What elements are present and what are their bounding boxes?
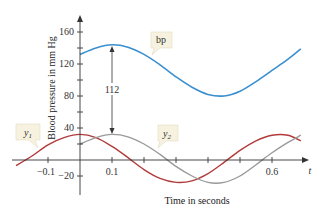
bp-label: bp (156, 34, 166, 45)
y-tick-80: 80 (64, 90, 74, 101)
y-tick-120: 120 (59, 58, 74, 69)
y-tick-minus-20: −20 (58, 170, 74, 181)
x-axis-title: Time in seconds (164, 195, 229, 206)
y-axis-title: Blood pressure in mm Hg (46, 36, 57, 139)
arrow-up-icon (110, 46, 115, 52)
y-tick-160: 160 (59, 26, 74, 37)
bp-callout: bp (151, 32, 172, 55)
y-tick-40: 40 (64, 122, 74, 133)
y-axis-arrow-icon (77, 15, 83, 22)
x-tick-0-6: 0.6 (266, 166, 279, 177)
y1-callout: y1 (16, 124, 40, 148)
blood-pressure-chart: 160 120 80 40 −20 −0.1 0.1 0.6 t Time in… (0, 0, 319, 213)
y2-callout: y2 (158, 125, 178, 148)
x-axis-symbol: t (309, 165, 312, 176)
x-axis-arrow-icon (302, 157, 309, 163)
x-tick-minus-0-1: −0.1 (37, 166, 55, 177)
difference-annotation: 112 (101, 46, 123, 134)
arrow-down-icon (110, 128, 115, 134)
x-tick-0-1: 0.1 (106, 166, 119, 177)
difference-label: 112 (105, 84, 120, 95)
